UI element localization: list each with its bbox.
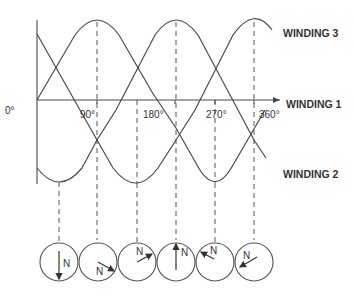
rotor-position-1: N xyxy=(40,243,78,281)
winding-1-label: WINDING 1 xyxy=(286,98,342,110)
rotor-position-2: N xyxy=(79,243,117,281)
rotor-position-4: N xyxy=(157,243,195,281)
svg-text:N: N xyxy=(181,247,188,258)
guide-lines xyxy=(59,22,254,242)
tick-label-90: 90° xyxy=(80,109,95,120)
tick-label-270: 270° xyxy=(206,109,227,120)
rotor-position-3: N xyxy=(118,243,156,281)
rotor-position-6: N xyxy=(235,243,273,281)
svg-text:N: N xyxy=(243,250,250,261)
waveform-diagram: 0° 90° 180° 270° 360° WINDING 3 WINDING … xyxy=(0,0,354,296)
winding-2-label: WINDING 2 xyxy=(283,168,339,180)
rotor-position-5: N xyxy=(196,243,234,281)
origin-label: 0° xyxy=(5,105,15,116)
axis-arrow-icon xyxy=(273,97,280,103)
tick-label-360: 360° xyxy=(259,109,280,120)
svg-text:N: N xyxy=(210,245,217,256)
winding-2-curve xyxy=(37,20,266,182)
winding-1-curve xyxy=(37,20,265,182)
tick-label-180: 180° xyxy=(143,109,164,120)
svg-text:N: N xyxy=(136,246,143,257)
rotor-positions: N N N N N N xyxy=(40,243,273,281)
svg-text:N: N xyxy=(96,266,103,277)
svg-text:N: N xyxy=(63,258,70,269)
winding-3-label: WINDING 3 xyxy=(283,27,339,39)
